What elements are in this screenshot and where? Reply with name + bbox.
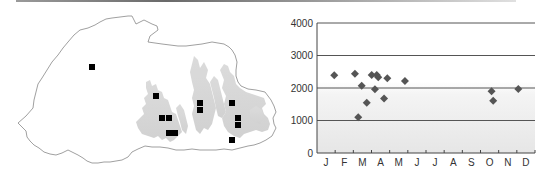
x-tick-label: F — [341, 157, 347, 168]
x-tick-label: J — [414, 157, 419, 168]
map-figure — [0, 0, 290, 175]
y-tick-label: 3000 — [291, 50, 314, 61]
locality-marker — [197, 107, 203, 113]
x-tick-label: J — [433, 157, 438, 168]
locality-marker — [159, 115, 165, 121]
y-tick-label: 1000 — [291, 115, 314, 126]
locality-marker — [235, 122, 241, 128]
x-tick-label: M — [395, 157, 403, 168]
y-axis-tick-labels: 01000200030004000 — [291, 18, 314, 159]
y-tick-label: 4000 — [291, 18, 314, 29]
locality-marker — [229, 100, 235, 106]
y-tick-label: 0 — [307, 148, 313, 159]
locality-marker — [166, 115, 172, 121]
locality-marker — [229, 137, 235, 143]
locality-marker — [89, 64, 95, 70]
x-tick-label: O — [486, 157, 494, 168]
x-tick-label: J — [324, 157, 329, 168]
x-tick-label: A — [377, 157, 384, 168]
x-tick-label: D — [522, 157, 529, 168]
x-tick-label: A — [450, 157, 457, 168]
locality-marker — [153, 93, 159, 99]
locality-marker — [235, 115, 241, 121]
locality-marker — [172, 130, 178, 136]
x-tick-label: N — [504, 157, 511, 168]
y-tick-label: 2000 — [291, 83, 314, 94]
locality-marker — [197, 100, 203, 106]
scatter-plot: 01000200030004000 JFMAMJJASOND — [280, 0, 557, 175]
x-tick-label: M — [358, 157, 366, 168]
elevation-by-month-chart: 01000200030004000 JFMAMJJASOND — [280, 0, 557, 175]
distribution-map — [0, 0, 290, 175]
x-tick-label: S — [468, 157, 475, 168]
locality-marker — [166, 130, 172, 136]
